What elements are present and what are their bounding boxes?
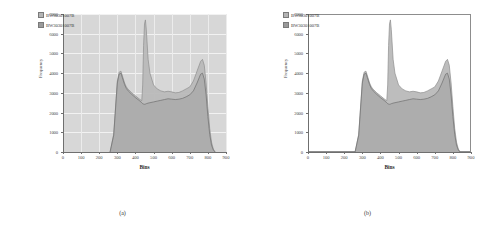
x-axis-tick-mark	[417, 152, 418, 154]
legend-label: BW30301007B	[46, 23, 74, 28]
x-axis-label-a: Bins	[63, 164, 226, 170]
x-axis-tick-mark	[399, 152, 400, 154]
y-axis-tick-mark	[306, 113, 308, 114]
y-axis-tick-label: 0	[283, 150, 303, 155]
gridline-vertical	[226, 14, 227, 152]
y-axis-tick-label: 6000	[38, 31, 58, 36]
x-axis-tick-mark	[63, 152, 64, 154]
x-axis-tick-mark	[154, 152, 155, 154]
y-axis-tick-mark	[61, 53, 63, 54]
x-axis-tick-label: 800	[444, 155, 462, 160]
x-axis-tick-label: 800	[199, 155, 217, 160]
x-axis-tick-label: 700	[426, 155, 444, 160]
y-axis-tick-label: 0	[38, 150, 58, 155]
x-axis-tick-mark	[208, 152, 209, 154]
x-axis-tick-mark	[308, 152, 309, 154]
legend-item[interactable]: BW30301007B	[283, 22, 319, 28]
panel-b: 0100020003000400050006000700001002003004…	[245, 0, 490, 228]
y-axis-line	[308, 14, 309, 152]
x-axis-tick-label: 600	[163, 155, 181, 160]
y-axis-tick-label: 2000	[38, 110, 58, 115]
y-axis-tick-label: 3000	[38, 90, 58, 95]
x-axis-tick-label: 0	[54, 155, 72, 160]
y-axis-tick-label: 1000	[38, 130, 58, 135]
x-axis-tick-label: 900	[462, 155, 480, 160]
x-axis-tick-label: 500	[145, 155, 163, 160]
y-axis-tick-mark	[306, 93, 308, 94]
x-axis-tick-label: 300	[108, 155, 126, 160]
legend-swatch-icon	[283, 22, 289, 28]
x-axis-tick-mark	[471, 152, 472, 154]
panel-caption-b: (b)	[245, 210, 490, 216]
x-axis-tick-mark	[99, 152, 100, 154]
x-axis-tick-mark	[326, 152, 327, 154]
legend-b: BW30301007B BW30301007B	[283, 12, 319, 28]
panel-caption-a: (a)	[0, 210, 245, 216]
y-axis-tick-mark	[61, 93, 63, 94]
y-axis-tick-mark	[61, 73, 63, 74]
x-axis-tick-label: 300	[353, 155, 371, 160]
y-axis-tick-mark	[61, 34, 63, 35]
legend-a: BW30301007B BW30301007B	[38, 12, 74, 28]
x-axis-tick-mark	[362, 152, 363, 154]
legend-swatch-icon	[38, 22, 44, 28]
y-axis-tick-label: 1000	[283, 130, 303, 135]
chart-a: 0100020003000400050006000700001002003004…	[40, 14, 226, 166]
x-axis-tick-mark	[117, 152, 118, 154]
y-axis-tick-mark	[306, 34, 308, 35]
y-axis-line	[63, 14, 64, 152]
x-axis-tick-label: 700	[181, 155, 199, 160]
x-axis-tick-label: 200	[90, 155, 108, 160]
x-axis-tick-mark	[226, 152, 227, 154]
x-axis-tick-label: 400	[126, 155, 144, 160]
x-axis-tick-label: 100	[317, 155, 335, 160]
legend-swatch-icon	[283, 12, 289, 18]
plot-curves-a	[63, 14, 226, 152]
x-axis-tick-label: 500	[390, 155, 408, 160]
x-axis-tick-mark	[453, 152, 454, 154]
y-axis-tick-label: 5000	[283, 51, 303, 56]
x-axis-tick-mark	[81, 152, 82, 154]
x-axis-tick-label: 200	[335, 155, 353, 160]
y-axis-tick-label: 2000	[283, 110, 303, 115]
y-axis-tick-mark	[306, 53, 308, 54]
x-axis-tick-mark	[172, 152, 173, 154]
legend-label: BW30301007B	[46, 13, 74, 18]
legend-swatch-icon	[38, 12, 44, 18]
x-axis-line	[308, 152, 471, 153]
x-axis-tick-mark	[344, 152, 345, 154]
panel-a: 0100020003000400050006000700001002003004…	[0, 0, 245, 228]
x-axis-tick-label: 0	[299, 155, 317, 160]
legend-item[interactable]: BW30301007B	[38, 12, 74, 18]
y-axis-tick-mark	[306, 132, 308, 133]
y-axis-tick-label: 6000	[283, 31, 303, 36]
y-axis-tick-mark	[61, 132, 63, 133]
legend-label: BW30301007B	[291, 23, 319, 28]
x-axis-label-b: Bins	[308, 164, 471, 170]
x-axis-tick-mark	[135, 152, 136, 154]
x-axis-tick-mark	[190, 152, 191, 154]
y-axis-tick-mark	[61, 113, 63, 114]
y-axis-label-a: Frequency	[38, 59, 43, 78]
legend-item[interactable]: BW30301007B	[283, 12, 319, 18]
x-axis-tick-mark	[380, 152, 381, 154]
y-axis-label-b: Frequency	[283, 59, 288, 78]
x-axis-line	[63, 152, 226, 153]
legend-item[interactable]: BW30301007B	[38, 22, 74, 28]
legend-label: BW30301007B	[291, 13, 319, 18]
figure-container: 0100020003000400050006000700001002003004…	[0, 0, 490, 228]
chart-b: 0100020003000400050006000700001002003004…	[285, 14, 471, 166]
x-axis-tick-label: 900	[217, 155, 235, 160]
x-axis-tick-label: 600	[408, 155, 426, 160]
x-axis-tick-mark	[435, 152, 436, 154]
y-axis-tick-label: 5000	[38, 51, 58, 56]
x-axis-tick-label: 100	[72, 155, 90, 160]
y-axis-tick-label: 3000	[283, 90, 303, 95]
x-axis-tick-label: 400	[371, 155, 389, 160]
plot-curves-b	[308, 14, 471, 152]
y-axis-tick-mark	[306, 73, 308, 74]
